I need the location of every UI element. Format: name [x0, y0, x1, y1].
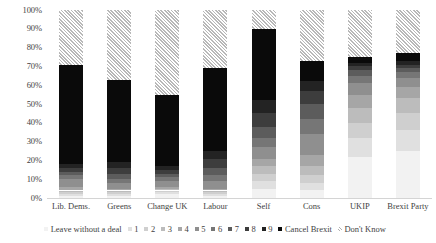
bar-stack — [396, 10, 420, 198]
bar-column[interactable] — [155, 10, 179, 198]
bar-segment — [252, 138, 276, 147]
bar-stack — [155, 10, 179, 198]
bar-segment — [348, 63, 372, 67]
bar-column[interactable] — [252, 10, 276, 198]
legend-swatch-8 — [245, 227, 249, 231]
bar-segment — [59, 175, 83, 179]
bar-segment — [396, 151, 420, 198]
bar-segment — [107, 10, 131, 80]
legend-item[interactable]: 3 — [161, 224, 172, 234]
x-axis-tick-label: Greens — [95, 201, 143, 212]
bar-stack — [107, 10, 131, 198]
bar-segment — [300, 175, 324, 183]
bar-stack — [348, 10, 372, 198]
legend-item-label: Don't Know — [344, 224, 385, 234]
bar-segment — [107, 80, 131, 163]
plot-area — [47, 10, 432, 198]
bar-segment — [252, 127, 276, 138]
x-axis-tick-label: Brexit Party — [384, 201, 432, 212]
bar-segment — [396, 87, 420, 98]
bar-segment — [348, 123, 372, 138]
bar-segment — [300, 155, 324, 166]
bar-segment — [300, 166, 324, 175]
legend-swatch-cancel-brexit — [278, 227, 282, 231]
legend-item[interactable]: 7 — [228, 224, 239, 234]
bar-segment — [107, 179, 131, 183]
bar-column[interactable] — [107, 10, 131, 198]
x-axis-tick-label: Labour — [191, 201, 239, 212]
bar-segment — [252, 113, 276, 126]
bar-column[interactable] — [203, 10, 227, 198]
bar-segment — [348, 83, 372, 94]
legend-item-label: 3 — [168, 224, 172, 234]
legend-item[interactable]: Leave without a deal — [44, 224, 122, 234]
legend-item[interactable]: 9 — [262, 224, 273, 234]
bar-column[interactable] — [59, 10, 83, 198]
bar-segment — [348, 66, 372, 70]
legend-item[interactable]: Don't Know — [338, 224, 386, 234]
bar-stack — [203, 10, 227, 198]
bar-segment — [252, 166, 276, 174]
bar-segment — [107, 194, 131, 196]
bar-stack — [300, 10, 324, 198]
bar-segment — [300, 190, 324, 198]
bar-segment — [203, 68, 227, 151]
x-axis-tick-label: Lib. Dems. — [47, 201, 95, 212]
bar-segment — [155, 10, 179, 95]
y-axis-tick-label: 70% — [0, 62, 42, 71]
legend-item[interactable]: 5 — [195, 224, 206, 234]
bar-segment — [203, 192, 227, 194]
bar-column[interactable] — [348, 10, 372, 198]
legend-item-label: 9 — [268, 224, 272, 234]
bar-segment — [59, 10, 83, 65]
bar-segment — [155, 181, 179, 187]
legend-item-label: 5 — [201, 224, 205, 234]
legend-item-label: 4 — [184, 224, 188, 234]
bar-segment — [396, 113, 420, 130]
bar-segment — [59, 164, 83, 168]
legend-item[interactable]: 6 — [211, 224, 222, 234]
bar-segment — [155, 191, 179, 193]
bar-segment — [348, 108, 372, 123]
bar-segment — [155, 170, 179, 174]
y-axis-tick-label: 20% — [0, 156, 42, 165]
legend-item[interactable]: 8 — [245, 224, 256, 234]
y-axis: 100%90%80%70%60%50%40%30%20%10%0% — [0, 0, 45, 206]
bar-segment — [155, 166, 179, 170]
bar-segment — [203, 175, 227, 181]
bar-segment — [300, 104, 324, 119]
chart-legend: Leave without a deal123456789Cancel Brex… — [0, 222, 436, 236]
legend-item[interactable]: 1 — [128, 224, 139, 234]
legend-item[interactable]: 4 — [178, 224, 189, 234]
bar-segment — [59, 187, 83, 191]
bar-segment — [203, 168, 227, 176]
bar-segment — [396, 10, 420, 53]
bar-segment — [203, 10, 227, 68]
bar-column[interactable] — [396, 10, 420, 198]
bar-segment — [107, 183, 131, 189]
bar-segment — [252, 174, 276, 182]
bar-segment — [252, 189, 276, 198]
bar-segment — [300, 91, 324, 104]
y-axis-tick-label: 30% — [0, 137, 42, 146]
legend-swatch-dont-know — [338, 227, 342, 231]
bar-segment — [155, 189, 179, 191]
bar-segment — [203, 159, 227, 168]
bar-segment — [107, 192, 131, 194]
legend-item[interactable]: Cancel Brexit — [278, 224, 331, 234]
bar-segment — [107, 162, 131, 168]
bar-segment — [59, 191, 83, 193]
legend-item-label: 6 — [218, 224, 222, 234]
bar-segment — [155, 192, 179, 194]
y-axis-tick-label: 10% — [0, 175, 42, 184]
bar-segment — [203, 189, 227, 191]
bar-segment — [396, 68, 420, 72]
legend-swatch-7 — [228, 227, 232, 231]
bar-segment — [300, 61, 324, 82]
x-axis-tick-label: Change UK — [143, 201, 191, 212]
bar-segment — [300, 81, 324, 90]
bar-column[interactable] — [300, 10, 324, 198]
bar-segment — [396, 61, 420, 65]
legend-item[interactable]: 2 — [144, 224, 155, 234]
bar-segment — [252, 147, 276, 158]
